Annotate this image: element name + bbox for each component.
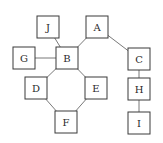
node-e: E	[85, 77, 107, 99]
node-label: J	[45, 22, 50, 33]
node-b: B	[56, 47, 78, 69]
node-i: I	[128, 112, 150, 134]
node-layer: JAGBCDEHFI	[13, 16, 150, 134]
node-c: C	[128, 48, 150, 70]
node-label: H	[135, 84, 144, 95]
node-h: H	[128, 78, 150, 100]
edge-layer	[24, 27, 139, 123]
node-f: F	[55, 111, 77, 133]
node-label: C	[135, 54, 143, 65]
graph-diagram: JAGBCDEHFI	[0, 0, 163, 143]
node-d: D	[25, 77, 47, 99]
node-a: A	[86, 16, 108, 38]
node-label: D	[32, 83, 40, 94]
node-label: G	[20, 53, 28, 64]
node-label: A	[92, 22, 101, 33]
node-label: F	[63, 117, 70, 128]
node-label: E	[92, 83, 99, 94]
node-label: I	[137, 118, 141, 129]
node-j: J	[37, 16, 59, 38]
node-label: B	[63, 53, 70, 64]
node-g: G	[13, 47, 35, 69]
